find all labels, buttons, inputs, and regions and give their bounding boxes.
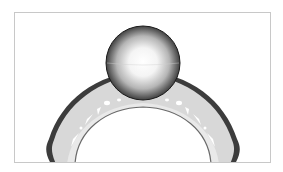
image-frame <box>14 12 271 163</box>
ring-render <box>15 13 271 163</box>
pearl-sphere <box>106 26 180 100</box>
